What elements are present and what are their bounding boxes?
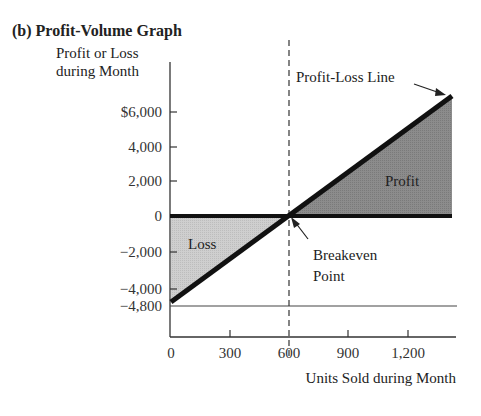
x-tick-600: 600 xyxy=(278,345,301,361)
x-tick-1200: 1,200 xyxy=(391,345,425,361)
y-tick-6000: $6,000 xyxy=(121,104,162,120)
profit-loss-line-label: Profit-Loss Line xyxy=(296,69,395,85)
y-tick-minus-2000: −2,000 xyxy=(120,244,162,260)
breakeven-label-line2: Point xyxy=(313,268,346,284)
y-tick-minus-4000: −4,000 xyxy=(120,281,162,297)
x-axis-label: Units Sold during Month xyxy=(306,370,457,386)
y-tick-0: 0 xyxy=(155,208,163,224)
profit-region-label: Profit xyxy=(385,173,420,189)
y-tick-2000: 2,000 xyxy=(128,173,162,189)
x-ticks xyxy=(230,330,408,337)
x-tick-900: 900 xyxy=(337,345,360,361)
x-tick-300: 300 xyxy=(219,345,242,361)
loss-region-label: Loss xyxy=(188,236,217,252)
profit-volume-chart: $6,000 4,000 2,000 0 −2,000 −4,000 −4,80… xyxy=(0,0,481,416)
x-tick-0: 0 xyxy=(167,345,175,361)
breakeven-label-line1: Breakeven xyxy=(313,247,378,263)
arrowhead-icon xyxy=(435,88,446,96)
y-tick-4000: 4,000 xyxy=(128,139,162,155)
y-tick-minus-4800: −4,800 xyxy=(120,298,162,314)
